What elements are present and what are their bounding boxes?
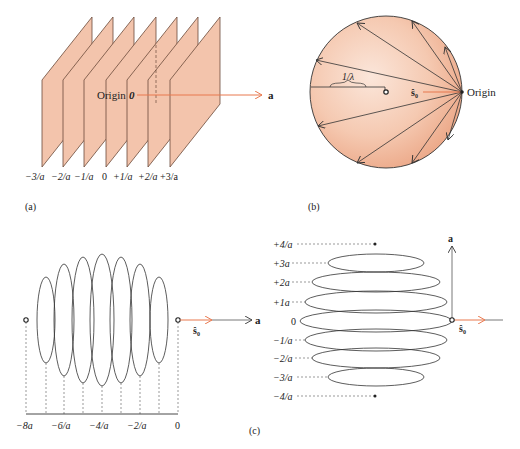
panel-a-planes: Origin 0 a [42,17,274,167]
s0-label-c-left: ŝ₀ [193,325,200,336]
level-label: −1/a [273,335,293,346]
level-label: −3/a [273,372,293,383]
axis-label-c-left: a [255,314,261,326]
level-label: +2a [273,277,290,288]
plane-label: 0 [102,171,107,182]
panel-c-right-levels: +4/a +3a +2a +1a 0 −1/a −2/a −3/a −4/a [273,239,296,402]
origin-label-a: Origin [97,89,126,101]
plane-label: +2/a [138,171,158,182]
origin-label-b: Origin [467,86,496,98]
level-label: −4/a [273,391,293,402]
tick-label: −8a [16,420,33,431]
panel-c-left-ticks: −8a −6/a −4/a −2/a 0 [16,420,180,431]
level-label: 0 [291,316,296,327]
plane-label: +1/a [113,171,133,182]
panel-c-right-ellipses: a ŝ₀ [292,233,503,398]
plane-label: −2/a [51,171,71,182]
plane-label: −1/a [74,171,94,182]
panel-c-left-ellipses: a ŝ₀ [24,254,261,414]
level-label: +1a [273,297,290,308]
caption-c: (c) [249,425,260,437]
s0-label-b: ŝ₀ [411,87,418,98]
level-label: +4/a [273,239,293,250]
tick-label: −4/a [89,420,109,431]
axis-label-c-right: a [448,233,453,244]
panel-a-plane-labels: −3/a −2/a −1/a 0 +1/a +2/a +3/a [25,171,178,182]
level-label: +3a [273,258,290,269]
tick-label: −6/a [51,420,71,431]
plane-label: +3/a [160,171,178,182]
tick-label: 0 [175,420,180,431]
panel-b-ewald-sphere: 1/λ ŝ₀ Origin [310,16,496,168]
axis-label-a: a [268,89,274,101]
plane-label: −3/a [25,171,45,182]
origin-symbol: 0 [129,89,135,101]
caption-b: (b) [308,201,320,213]
s0-label-c-right: ŝ₀ [459,323,466,334]
radius-label: 1/λ [342,71,355,82]
tick-label: −2/a [127,420,147,431]
caption-a: (a) [25,201,36,213]
reciprocal-lattice-figure: Origin 0 a −3/a −2/a −1/a 0 +1/a +2/a +3… [0,0,520,449]
level-label: −2/a [273,353,293,364]
